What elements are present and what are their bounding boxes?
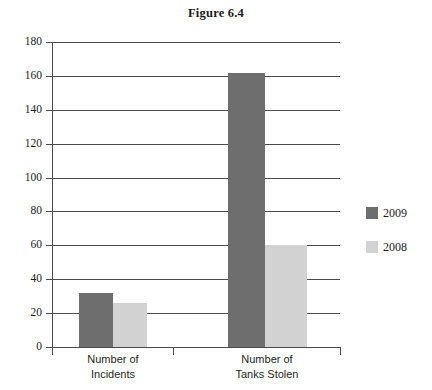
- x-axis-label-line1: Number of: [207, 352, 327, 367]
- y-axis-label: 180: [0, 36, 42, 48]
- bar-2008-1: [265, 245, 307, 347]
- y-axis-label: 100: [0, 172, 42, 184]
- chart-legend: 20092008: [366, 196, 432, 264]
- figure-container: Figure 6.4 180160140120100806040200 Numb…: [0, 0, 432, 390]
- legend-label-2008: 2008: [383, 241, 407, 253]
- bar-2008-0: [113, 303, 147, 347]
- y-axis-label: 0: [0, 341, 42, 353]
- gridline: [52, 347, 340, 348]
- y-axis-label: 60: [0, 239, 42, 251]
- y-axis-label: 160: [0, 70, 42, 82]
- legend-swatch-2008: [366, 241, 378, 253]
- figure-title: Figure 6.4: [0, 6, 432, 21]
- legend-label-2009: 2009: [383, 207, 407, 219]
- x-axis-end-tick: [340, 347, 341, 355]
- y-axis-label: 120: [0, 138, 42, 150]
- y-axis-label: 140: [0, 104, 42, 116]
- y-axis-label: 40: [0, 273, 42, 285]
- legend-item-2008: 2008: [366, 230, 432, 264]
- y-axis-label: 20: [0, 307, 42, 319]
- y-axis-tick: [46, 347, 53, 348]
- bar-2009-0: [79, 293, 113, 347]
- x-axis-label-line1: Number of: [53, 352, 173, 367]
- legend-item-2009: 2009: [366, 196, 432, 230]
- x-axis-label-line2: Tanks Stolen: [207, 367, 327, 382]
- plot-area: [52, 42, 340, 347]
- bar-2009-1: [228, 73, 265, 348]
- x-axis-label-1: Number ofTanks Stolen: [207, 352, 327, 382]
- x-axis-label-line2: Incidents: [53, 367, 173, 382]
- y-axis-label: 80: [0, 205, 42, 217]
- x-axis-category-separator-tick: [173, 347, 174, 355]
- legend-swatch-2009: [366, 207, 378, 219]
- x-axis-label-0: Number ofIncidents: [53, 352, 173, 382]
